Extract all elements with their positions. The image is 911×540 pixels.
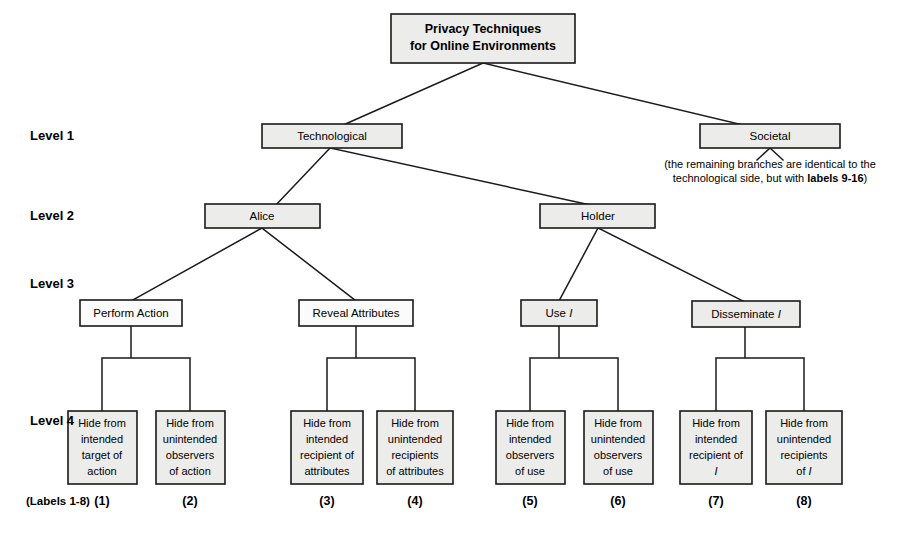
node-technological[interactable]: Technological	[262, 124, 402, 148]
connector-technological-holder	[330, 148, 600, 207]
leaf-2-line-3: observers	[166, 449, 215, 461]
societal-note-line2-strong: labels 9-16	[807, 172, 863, 184]
leaf-5-line-4-text: of use	[515, 465, 545, 477]
leaf-3-line-2: intended	[306, 433, 348, 445]
index-label-4: (4)	[407, 494, 422, 508]
leaf-7-line-4: I	[714, 465, 717, 477]
leaf-3-line-1: Hide from	[303, 417, 351, 429]
level-row-labels: Level 1 Level 2 Level 3 Level 4	[30, 128, 75, 428]
node-reveal-attributes[interactable]: Reveal Attributes	[299, 300, 413, 326]
leaf-8-line-2: unintended	[777, 433, 831, 445]
societal-note: (the remaining branches are identical to…	[664, 158, 876, 184]
node-perform-action-label: Perform Action	[93, 307, 168, 319]
leaf-6[interactable]: Hide from unintended observers of use	[584, 411, 653, 484]
node-societal[interactable]: Societal	[700, 124, 840, 148]
leaf-1-line-1: Hide from	[78, 417, 126, 429]
connector-reveal-attributes-leaves	[327, 326, 415, 411]
leaf-8-italic: I	[809, 465, 812, 477]
leaf-5-line-4: of use	[515, 465, 545, 477]
connector-root-societal	[483, 63, 768, 131]
level-label-3: Level 3	[30, 276, 74, 291]
societal-note-line2: technological side, but with labels 9-16…	[673, 172, 867, 184]
node-disseminate-label: Disseminate I	[711, 308, 781, 320]
level-label-4: Level 4	[30, 413, 75, 428]
leaf-2-line-1: Hide from	[166, 417, 214, 429]
connector-disseminate-leaves	[716, 327, 804, 411]
connector-technological-alice	[275, 148, 330, 206]
leaf-7-line-2: intended	[695, 433, 737, 445]
node-reveal-attributes-label: Reveal Attributes	[313, 307, 400, 319]
level-label-1: Level 1	[30, 128, 74, 143]
labels-caption: (Labels 1-8)	[26, 495, 90, 507]
connector-holder-disseminate	[598, 228, 745, 302]
leaf-5-line-2: intended	[509, 433, 551, 445]
societal-note-line1: (the remaining branches are identical to…	[664, 158, 876, 170]
node-use-label: Use I	[546, 307, 574, 319]
leaf-7[interactable]: Hide from intended recipient of I	[680, 411, 752, 484]
node-perform-action[interactable]: Perform Action	[80, 300, 182, 326]
leaf-4-line-1: Hide from	[391, 417, 439, 429]
leaf-4-line-2: unintended	[388, 433, 442, 445]
node-alice-label: Alice	[250, 210, 275, 222]
node-societal-label: Societal	[750, 130, 791, 142]
leaf-2[interactable]: Hide from unintended observers of action	[156, 411, 225, 484]
leaf-2-line-4: of action	[169, 465, 211, 477]
node-root-line2: for Online Environments	[410, 39, 556, 53]
leaf-7-line-1: Hide from	[692, 417, 740, 429]
connector-root-technological	[332, 63, 483, 130]
leaf-6-line-3: observers	[594, 449, 643, 461]
index-label-3: (3)	[319, 494, 334, 508]
leaf-8[interactable]: Hide from unintended recipients of I	[766, 411, 842, 484]
leaf-4-line-4-text: of attributes	[386, 465, 444, 477]
connector-alice-perform-action	[131, 228, 262, 301]
connector-alice-reveal-attributes	[262, 228, 356, 301]
leaf-3-line-3: recipient of	[300, 449, 355, 461]
node-holder-label: Holder	[581, 210, 615, 222]
leaf-2-line-4-text: of action	[169, 465, 211, 477]
societal-note-line2-suffix: )	[864, 172, 868, 184]
leaf-6-line-1: Hide from	[594, 417, 642, 429]
node-root-line1: Privacy Techniques	[425, 22, 542, 36]
connector-group-level3-level4	[102, 326, 804, 411]
node-root[interactable]: Privacy Techniques for Online Environmen…	[391, 14, 575, 63]
leaf-2-line-2: unintended	[163, 433, 217, 445]
connector-group-root	[332, 63, 768, 131]
level-label-2: Level 2	[30, 208, 74, 223]
node-disseminate[interactable]: Disseminate I	[692, 301, 800, 327]
leaf-6-line-4-text: of use	[603, 465, 633, 477]
leaf-5[interactable]: Hide from intended observers of use	[496, 411, 565, 484]
node-holder[interactable]: Holder	[540, 204, 655, 228]
leaf-1-line-4: action	[87, 465, 116, 477]
index-label-5: (5)	[522, 494, 537, 508]
leaf-5-line-3: observers	[506, 449, 555, 461]
leaf-4-line-4: of attributes	[386, 465, 444, 477]
leaf-8-line-1: Hide from	[780, 417, 828, 429]
index-label-7: (7)	[708, 494, 723, 508]
index-label-1: (1)	[94, 494, 109, 508]
node-reveal-attributes-text: Reveal Attributes	[313, 307, 400, 319]
index-label-8: (8)	[796, 494, 811, 508]
leaf-6-line-4: of use	[603, 465, 633, 477]
leaf-8-line-4: of I	[796, 465, 811, 477]
node-use-text: Use	[546, 307, 570, 319]
node-alice[interactable]: Alice	[205, 204, 320, 228]
leaf-8-line-4-text: of	[796, 465, 808, 477]
leaf-4[interactable]: Hide from unintended recipients of attri…	[377, 411, 453, 484]
leaf-5-line-1: Hide from	[506, 417, 554, 429]
index-label-2: (2)	[182, 494, 197, 508]
leaf-1-line-4-text: action	[87, 465, 116, 477]
leaf-3[interactable]: Hide from intended recipient of attribut…	[291, 411, 363, 484]
node-perform-action-text: Perform Action	[93, 307, 168, 319]
connector-group-technological	[275, 148, 600, 207]
connector-perform-action-leaves	[102, 326, 190, 411]
leaf-1[interactable]: Hide from intended target of action	[68, 411, 137, 484]
leaf-8-line-3: recipients	[780, 449, 828, 461]
leaf-7-line-3: recipient of	[689, 449, 744, 461]
connector-holder-use	[559, 228, 598, 301]
node-use[interactable]: Use I	[521, 300, 597, 326]
index-label-6: (6)	[610, 494, 625, 508]
hierarchy-tree: Privacy Techniques for Online Environmen…	[0, 0, 911, 540]
leaf-1-line-2: intended	[81, 433, 123, 445]
leaf-6-line-2: unintended	[591, 433, 645, 445]
node-disseminate-text: Disseminate	[711, 308, 777, 320]
